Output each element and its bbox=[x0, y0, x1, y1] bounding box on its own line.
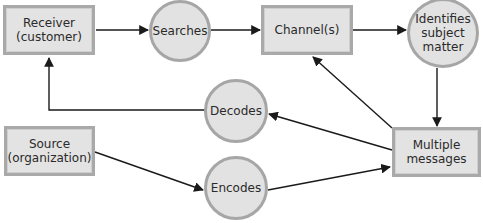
edge-messages-to-decodes bbox=[269, 114, 392, 150]
node-channels: Channel(s) bbox=[261, 5, 353, 55]
node-channels-label: Channel(s) bbox=[275, 23, 340, 37]
node-searches: Searches bbox=[149, 0, 211, 62]
node-source-label: Source (organization) bbox=[8, 137, 92, 165]
node-receiver: Receiver (customer) bbox=[3, 5, 95, 55]
node-messages: Multiple messages bbox=[392, 127, 481, 177]
node-encodes-label: Encodes bbox=[211, 181, 261, 195]
node-source: Source (organization) bbox=[4, 126, 95, 176]
edge-source-to-encodes bbox=[95, 152, 203, 190]
edge-encodes-to-messages bbox=[268, 167, 390, 190]
edge-messages-to-channels bbox=[313, 57, 392, 128]
node-searches-label: Searches bbox=[153, 24, 208, 38]
node-decodes-label: Decodes bbox=[210, 104, 262, 118]
node-messages-label: Multiple messages bbox=[406, 138, 466, 166]
node-receiver-label: Receiver (customer) bbox=[16, 16, 82, 44]
edge-decodes-to-receiver bbox=[49, 58, 205, 110]
node-decodes: Decodes bbox=[204, 79, 268, 143]
node-identifies: Identifies subject matter bbox=[407, 0, 479, 68]
node-encodes: Encodes bbox=[204, 156, 268, 220]
node-identifies-label: Identifies subject matter bbox=[415, 12, 470, 54]
